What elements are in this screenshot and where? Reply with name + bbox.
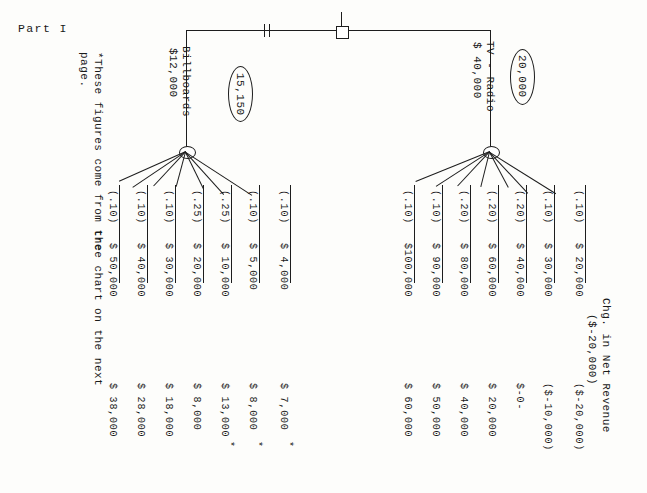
- tvradio-net-6: ($-10,000): [542, 383, 553, 451]
- tvradio-label: TV - Radio: [484, 41, 496, 112]
- tvradio-net-5: $-0-: [514, 383, 525, 410]
- prune-mark-1: [264, 24, 265, 37]
- tvradio-ev-oval: 20,000: [510, 49, 535, 105]
- billboards-ev-value: 15,150: [234, 73, 246, 116]
- billboards-stem-6: [259, 185, 260, 283]
- part-label: Part I: [18, 22, 68, 35]
- billboards-cost: $12,000: [167, 48, 179, 98]
- billboards-prob-7: (.10): [278, 190, 289, 224]
- billboards-payoff-5: $ 10,000: [219, 243, 230, 297]
- billboards-net-1: $ 38,000: [107, 383, 118, 437]
- billboards-payoff-3: $ 30,000: [163, 243, 174, 297]
- billboards-prob-5: (.25): [219, 190, 230, 224]
- billboards-edge-1: [119, 151, 186, 182]
- billboards-payoff-1: $ 50,000: [107, 243, 118, 297]
- tvradio-prob-6: (.10): [542, 190, 553, 224]
- tvradio-cost: $ 40,000: [471, 42, 483, 99]
- billboards-ev-oval: 15,150: [228, 66, 253, 122]
- tvradio-prob-7: (.10): [573, 190, 584, 224]
- billboards-stem-3: [175, 185, 176, 283]
- tvradio-stem-7: [585, 185, 586, 283]
- tvradio-stem-4: [498, 185, 499, 283]
- tvradio-payoff-1: $100,000: [402, 243, 413, 297]
- billboards-payoff-6: $ 5,000: [247, 243, 258, 291]
- tvradio-net-1: $ 60,000: [402, 383, 413, 437]
- tvradio-stem-3: [470, 185, 471, 283]
- billboards-stem-7: [290, 185, 291, 283]
- tvradio-ev-value: 20,000: [516, 55, 528, 98]
- billboards-asterisk-6: *: [252, 441, 263, 447]
- footnote-line2: page.: [78, 52, 90, 88]
- tvradio-prob-5: (.20): [514, 190, 525, 224]
- tvradio-prob-4: (.20): [486, 190, 497, 224]
- tvradio-net-2: $ 50,000: [430, 383, 441, 437]
- tvradio-stem-2: [442, 185, 443, 283]
- billboards-label: Billboards: [180, 46, 192, 117]
- decision-tree-page: Part I *These figures come from the page…: [0, 0, 647, 493]
- billboards-payoff-4: $ 20,000: [191, 243, 202, 297]
- prune-mark-2: [269, 24, 270, 37]
- billboards-net-2: $ 28,000: [135, 383, 146, 437]
- footnote-line1b: tree chart on the next: [92, 230, 104, 386]
- tvradio-payoff-3: $ 80,000: [458, 243, 469, 297]
- tvradio-prob-3: (.20): [458, 190, 469, 224]
- tvradio-payoff-5: $ 40,000: [514, 243, 525, 297]
- tvradio-stem-6: [554, 185, 555, 283]
- tvradio-payoff-7: $ 20,000: [573, 243, 584, 297]
- billboards-stem-2: [147, 185, 148, 283]
- billboards-stem-4: [203, 185, 204, 283]
- billboards-stem-5: [231, 185, 232, 283]
- decision-node-square[interactable]: [336, 26, 349, 39]
- tvradio-payoff-6: $ 30,000: [542, 243, 553, 297]
- billboards-edge-2: [132, 151, 186, 188]
- tvradio-net-7: ($-20,000): [573, 383, 584, 451]
- tvradio-payoff-4: $ 60,000: [486, 243, 497, 297]
- tvradio-prob-2: (.10): [430, 190, 441, 224]
- billboards-net-3: $ 18,000: [163, 383, 174, 437]
- billboards-prob-4: (.25): [191, 190, 202, 224]
- tvradio-payoff-2: $ 90,000: [430, 243, 441, 297]
- billboards-stem-1: [119, 185, 120, 283]
- tvradio-stem-5: [526, 185, 527, 283]
- billboards-prob-2: (.10): [135, 190, 146, 224]
- billboards-payoff-7: $ 4,000: [278, 243, 289, 291]
- billboards-prob-3: (.10): [163, 190, 174, 224]
- tvradio-prob-1: (.10): [402, 190, 413, 224]
- tvradio-net-3: $ 40,000: [458, 383, 469, 437]
- tvradio-edge-1: [415, 151, 490, 182]
- billboards-asterisk-5: *: [224, 441, 235, 447]
- billboards-payoff-2: $ 40,000: [135, 243, 146, 297]
- column-header-line2: ($-20,000): [586, 314, 598, 385]
- billboards-asterisk-7: *: [283, 441, 294, 447]
- billboards-net-6: $ 8,000: [247, 383, 258, 431]
- tvradio-stem-1: [414, 185, 415, 283]
- billboards-prob-1: (.10): [107, 190, 118, 224]
- footnote-line1: *These figures come from the: [92, 52, 104, 251]
- billboards-net-7: $ 7,000: [278, 383, 289, 431]
- billboards-net-5: $ 13,000: [219, 383, 230, 437]
- billboards-prob-6: (.10): [247, 190, 258, 224]
- billboards-net-4: $ 8,000: [191, 383, 202, 431]
- tvradio-net-4: $ 20,000: [486, 383, 497, 437]
- column-header-line1: Chg. in Net Revenue: [600, 298, 612, 433]
